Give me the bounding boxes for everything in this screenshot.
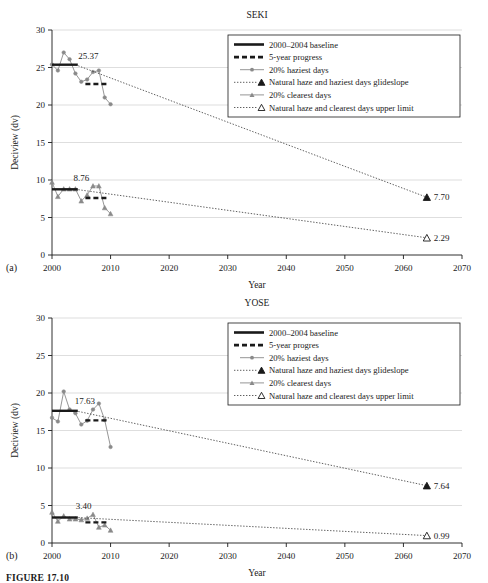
legend-marker-circle-icon [250,68,254,72]
y-tick-label: 10 [36,175,46,185]
data-point-triangle [50,180,55,185]
x-tick-label: 2020 [160,551,179,561]
x-tick-label: 2060 [394,263,413,273]
data-point-triangle [85,193,90,198]
data-point-circle [62,51,66,55]
value-annotation: 3.40 [76,501,92,511]
value-annotation: 25.37 [78,51,99,61]
data-point-circle [79,80,83,84]
value-annotation: 7.64 [434,481,450,491]
legend-item-label: Natural haze and haziest days glideslope [269,77,409,87]
figure-container: SEKI051015202530200020102020203020402050… [0,0,488,583]
data-point-circle [62,390,66,394]
y-tick-label: 15 [36,426,46,436]
x-tick-label: 2010 [102,551,121,561]
data-point-circle [91,70,95,74]
glideslope-endpoint-filled-triangle-icon [423,194,430,201]
x-tick-label: 2050 [336,551,355,561]
legend-item-label: Natural haze and clearest days upper lim… [269,103,414,113]
x-tick-label: 2000 [43,551,62,561]
value-annotation: 17.63 [75,396,96,406]
data-point-triangle [50,510,55,514]
data-point-triangle [102,205,107,210]
x-axis-label: Year [248,280,266,288]
glideslope-endpoint-filled-triangle-icon [423,482,430,489]
glideslope-line [75,518,427,536]
data-point-circle [97,402,101,406]
y-tick-label: 10 [36,463,46,473]
chart-title: SEKI [246,10,267,20]
seki-chart-svg: SEKI051015202530200020102020203020402050… [0,0,488,288]
data-point-circle [85,78,89,82]
x-tick-label: 2030 [219,263,238,273]
x-tick-label: 2040 [277,263,296,273]
y-tick-label: 25 [36,63,46,73]
y-tick-label: 15 [36,138,46,148]
data-point-circle [91,408,95,412]
data-point-circle [68,57,72,61]
x-axis-label: Year [248,568,266,576]
data-point-circle [56,420,60,424]
y-axis-label: Deciview (dv) [10,403,21,458]
legend-item-label: 5-year progres [269,340,320,350]
value-annotation: 0.99 [434,531,450,541]
y-tick-label: 20 [36,388,46,398]
y-tick-label: 5 [41,213,46,223]
y-tick-label: 0 [41,250,46,260]
legend-item-label: Natural haze and clearest days upper lim… [269,391,414,401]
x-tick-label: 2060 [394,551,413,561]
value-annotation: 8.76 [73,173,89,183]
y-tick-label: 20 [36,100,46,110]
data-point-circle [109,102,113,106]
x-tick-label: 2070 [453,263,472,273]
y-tick-label: 5 [41,501,46,511]
y-tick-label: 0 [41,538,46,548]
panel-label-a: (a) [6,262,17,273]
data-point-circle [50,416,54,420]
legend-item-label: 2000–2004 baseline [269,328,338,338]
value-annotation: 7.70 [434,192,450,202]
data-point-circle [74,72,78,76]
data-point-circle [97,69,101,73]
x-tick-label: 2000 [43,263,62,273]
legend-item-label: 20% clearest days [269,378,332,388]
x-tick-label: 2050 [336,263,355,273]
legend-item-label: 20% haziest days [269,353,329,363]
figure-caption: FIGURE 17.10 [6,573,69,583]
x-tick-label: 2040 [277,551,296,561]
x-tick-label: 2010 [102,263,121,273]
legend-item-label: 5-year progress [269,52,323,62]
legend-item-label: 20% haziest days [269,65,329,75]
legend-item-label: Natural haze and haziest days glideslope [269,365,409,375]
chart-panel-yose: YOSE051015202530200020102020203020402050… [0,288,488,576]
y-tick-label: 25 [36,351,46,361]
data-point-circle [109,445,113,449]
value-annotation: 2.29 [434,233,450,243]
chart-panel-seki: SEKI051015202530200020102020203020402050… [0,0,488,288]
glideslope-line [75,411,427,486]
data-point-triangle [91,512,96,517]
x-tick-label: 2020 [160,263,179,273]
panel-label-b: (b) [6,550,18,561]
y-tick-label: 30 [36,25,46,35]
x-tick-label: 2070 [453,551,472,561]
y-axis-label: Deciview (dv) [10,115,21,170]
legend-item-label: 2000–2004 baseline [269,40,338,50]
y-tick-label: 30 [36,313,46,323]
x-tick-label: 2030 [219,551,238,561]
yose-chart-svg: YOSE051015202530200020102020203020402050… [0,288,488,576]
data-point-circle [56,69,60,73]
data-point-circle [103,96,107,100]
data-point-circle [79,423,83,427]
chart-title: YOSE [245,298,270,308]
legend-item-label: 20% clearest days [269,90,332,100]
glideslope-line [75,189,427,238]
legend-marker-circle-icon [250,356,254,360]
